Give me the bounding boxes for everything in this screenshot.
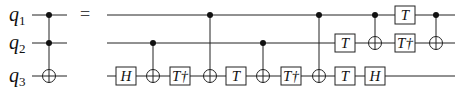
gate-t-dagger: T† [395, 34, 415, 52]
gate-t: T [335, 34, 355, 52]
gate-label: H [369, 68, 382, 84]
control-dot [207, 12, 213, 18]
gate-h: H [116, 67, 136, 85]
cnot-gate [313, 12, 326, 83]
gate-label: T† [172, 68, 188, 84]
qubit-label-q2: q2 [9, 31, 26, 56]
qubit-label-q1: q1 [9, 3, 26, 28]
cnot-gate [147, 40, 160, 83]
toffoli-gate [43, 12, 56, 83]
rhs-circuit: HT†TT†TTHTT† [107, 6, 455, 85]
control-dot [260, 40, 266, 46]
gate-t: T [395, 6, 415, 24]
control-dot [46, 12, 52, 18]
gate-t-dagger: T† [170, 67, 190, 85]
control-dot [46, 40, 52, 46]
gate-t: T [226, 67, 246, 85]
cnot-gate [204, 12, 217, 83]
gate-label: T† [283, 68, 299, 84]
quantum-circuit-diagram: q1 q2 q3 = HT†TT†TTHTT† [0, 0, 465, 91]
lhs-circuit [32, 12, 67, 83]
gate-h: H [365, 67, 385, 85]
gate-t: T [335, 67, 355, 85]
qubit-labels: q1 q2 q3 [9, 3, 26, 89]
control-dot [150, 40, 156, 46]
gate-label: T† [397, 35, 413, 51]
qubit-label-q3: q3 [9, 64, 26, 89]
gate-t-dagger: T† [281, 67, 301, 85]
gate-label: H [120, 68, 133, 84]
equals-sign: = [80, 4, 90, 24]
cnot-gate [430, 12, 443, 50]
control-dot [433, 12, 439, 18]
control-dot [372, 12, 378, 18]
control-dot [316, 12, 322, 18]
cnot-gate [257, 40, 270, 83]
cnot-gate [369, 12, 382, 50]
